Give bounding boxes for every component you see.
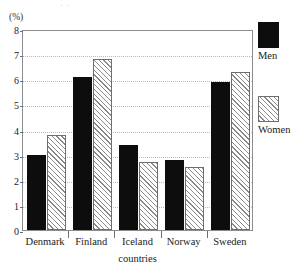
solid-black-swatch <box>258 22 279 48</box>
plot-area: 012345678 <box>22 30 253 231</box>
bars-layer <box>23 31 252 230</box>
x-tick-mark <box>161 231 162 238</box>
y-tick-label: 4 <box>14 127 19 137</box>
x-tick-mark <box>207 231 208 238</box>
bar-norway-women <box>185 167 204 230</box>
bar-norway-men <box>165 160 184 230</box>
y-tick-label: 8 <box>14 26 19 36</box>
cut-off-caption: · · <box>60 0 230 7</box>
x-tick-mark <box>68 231 69 238</box>
x-category-label-finland: Finland <box>75 236 107 247</box>
bar-denmark-men <box>27 155 46 230</box>
x-tick-mark <box>114 231 115 238</box>
bar-finland-women <box>93 59 112 230</box>
y-tick-label: 1 <box>14 202 19 212</box>
y-tick-mark <box>20 232 23 233</box>
bar-sweden-women <box>231 72 250 230</box>
bar-iceland-women <box>139 162 158 230</box>
y-tick-label: 5 <box>14 101 19 111</box>
x-category-label-iceland: Iceland <box>122 236 153 247</box>
y-tick-label: 2 <box>14 177 19 187</box>
y-tick-label: 3 <box>14 152 19 162</box>
legend-item-women: Women <box>258 96 290 135</box>
bar-finland-men <box>73 77 92 230</box>
legend-label-women: Women <box>258 124 290 135</box>
bar-sweden-men <box>211 82 230 230</box>
x-category-label-sweden: Sweden <box>213 236 246 247</box>
y-tick-label: 6 <box>14 76 19 86</box>
y-axis-unit-label: (%) <box>9 12 23 22</box>
bar-chart-figure: · · (%) 012345678 DenmarkFinlandIcelandN… <box>0 0 297 270</box>
legend-label-men: Men <box>258 50 279 61</box>
y-tick-label: 7 <box>14 51 19 61</box>
bar-iceland-men <box>119 145 138 230</box>
x-category-label-norway: Norway <box>167 236 201 247</box>
x-axis-title: countries <box>0 253 275 264</box>
y-tick-label: 0 <box>14 227 19 237</box>
x-category-label-denmark: Denmark <box>26 236 65 247</box>
legend-item-men: Men <box>258 22 279 61</box>
bar-denmark-women <box>47 135 66 230</box>
hatched-swatch <box>258 96 279 122</box>
